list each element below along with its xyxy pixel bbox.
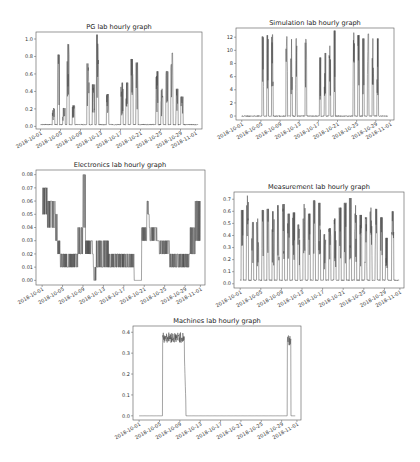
plot-frame: [234, 192, 404, 288]
y-tick-label: 0.6: [223, 208, 231, 214]
y-tick-label: 12: [227, 34, 233, 40]
chart-canvas: PG lab hourly graph 0.00.20.40.60.81.020…: [0, 0, 420, 462]
y-tick-label: 0.02: [22, 251, 33, 257]
chart-measurement-lab: Measurement lab hourly graph 0.00.10.20.…: [215, 183, 404, 308]
y-tick-label: 0.7: [223, 196, 231, 202]
series-line: [240, 196, 399, 281]
chart-title: PG lab hourly graph: [86, 23, 152, 31]
y-tick-label: 0.4: [223, 232, 231, 238]
chart-electronics-lab: Electronics lab hourly graph 0.000.010.0…: [16, 161, 205, 305]
plot-frame: [236, 28, 394, 120]
plot-frame: [36, 32, 202, 129]
series-line: [242, 31, 388, 117]
y-tick-label: 0.1: [223, 268, 231, 274]
chart-title: Measurement lab hourly graph: [268, 183, 370, 191]
plot-frame: [133, 326, 301, 420]
y-tick-label: 0.05: [22, 211, 33, 217]
plot-frame: [36, 170, 205, 285]
y-tick-label: 0.6: [25, 71, 33, 77]
y-tick-label: 0.04: [22, 224, 33, 230]
chart-title: Electronics lab hourly graph: [74, 161, 166, 169]
y-tick-label: 0.8: [25, 53, 33, 59]
y-tick-label: 0: [230, 113, 233, 119]
y-tick-label: 2: [230, 100, 233, 106]
y-tick-label: 0.2: [25, 106, 33, 112]
y-tick-label: 0.1: [122, 392, 130, 398]
chart-simulation-lab: Simulation lab hourly graph 024681012201…: [216, 19, 394, 140]
y-tick-label: 6: [230, 73, 233, 79]
y-tick-label: 0.08: [22, 171, 33, 177]
y-tick-label: 0.03: [22, 237, 33, 243]
y-tick-label: 0.06: [22, 198, 33, 204]
y-tick-label: 0.4: [122, 329, 130, 335]
y-tick-label: 0.0: [25, 123, 33, 129]
y-tick-label: 0.3: [223, 244, 231, 250]
y-tick-label: 0.5: [223, 220, 231, 226]
y-tick-label: 0.00: [22, 277, 33, 283]
chart-title: Machines lab hourly graph: [173, 317, 261, 325]
y-tick-label: 0.0: [223, 280, 231, 286]
y-tick-label: 0.2: [122, 371, 130, 377]
chart-machines-lab: Machines lab hourly graph 0.00.10.20.30.…: [113, 317, 301, 440]
y-tick-label: 0.0: [122, 413, 130, 419]
chart-pg-lab: PG lab hourly graph 0.00.20.40.60.81.020…: [15, 23, 202, 149]
y-tick-label: 0.07: [22, 185, 33, 191]
y-tick-label: 0.2: [223, 256, 231, 262]
y-tick-label: 8: [230, 60, 233, 66]
y-tick-label: 1.0: [25, 36, 33, 42]
series-line: [139, 332, 295, 415]
series-line: [42, 175, 200, 281]
series-line: [41, 35, 198, 126]
y-tick-label: 10: [227, 47, 233, 53]
y-tick-label: 0.4: [25, 88, 33, 94]
chart-title: Simulation lab hourly graph: [269, 19, 361, 27]
y-tick-label: 4: [230, 86, 233, 92]
y-tick-label: 0.3: [122, 350, 130, 356]
y-tick-label: 0.01: [22, 264, 33, 270]
